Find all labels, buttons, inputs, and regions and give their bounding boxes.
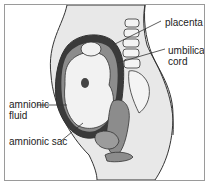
label-amnionic-fluid-line1: amnionic bbox=[9, 99, 49, 110]
pregnancy-illustration bbox=[5, 5, 204, 180]
label-umbilical-line2: cord bbox=[168, 56, 187, 67]
label-umbilical-line1: umbilical bbox=[168, 45, 205, 56]
label-amnionic-sac: amnionic sac bbox=[9, 136, 67, 147]
label-amnionic-fluid-line2: fluid bbox=[9, 110, 27, 121]
diagram-frame: placenta umbilical cord amnionic fluid a… bbox=[4, 4, 205, 181]
label-placenta: placenta bbox=[165, 17, 203, 28]
